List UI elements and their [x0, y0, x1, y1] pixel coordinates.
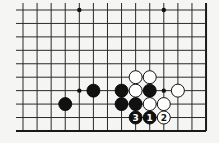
- star-point: [77, 8, 81, 12]
- white-stone: [171, 84, 184, 97]
- stone-disc: [143, 71, 156, 84]
- black-stone: [115, 98, 128, 111]
- board-grid: [16, 3, 206, 131]
- black-stone: [129, 98, 142, 111]
- stone-disc: [171, 84, 184, 97]
- white-stone: [143, 98, 156, 111]
- white-stone: [129, 71, 142, 84]
- move-number-label: 3: [133, 113, 139, 123]
- stone-disc: [87, 84, 100, 97]
- stone-disc: [143, 98, 156, 111]
- stone-disc: [129, 84, 142, 97]
- black-stone: [87, 84, 100, 97]
- star-point: [162, 88, 166, 92]
- black-stone-move-3: 3: [129, 111, 142, 124]
- stone-disc: [143, 84, 156, 97]
- move-number-label: 2: [161, 113, 167, 123]
- white-stone-move-2: 2: [157, 111, 170, 124]
- stone-disc: [59, 98, 72, 111]
- star-point: [77, 88, 81, 92]
- stone-disc: [129, 98, 142, 111]
- move-number-label: 1: [147, 113, 153, 123]
- stone-disc: [115, 98, 128, 111]
- white-stone: [129, 84, 142, 97]
- black-stone: [59, 98, 72, 111]
- white-stone: [143, 71, 156, 84]
- go-board: 312: [0, 0, 219, 143]
- black-stone: [115, 84, 128, 97]
- stone-disc: [115, 84, 128, 97]
- star-point: [162, 8, 166, 12]
- white-stone: [157, 98, 170, 111]
- black-stone-move-1: 1: [143, 111, 156, 124]
- stone-disc: [129, 71, 142, 84]
- stone-disc: [157, 98, 170, 111]
- black-stone: [143, 84, 156, 97]
